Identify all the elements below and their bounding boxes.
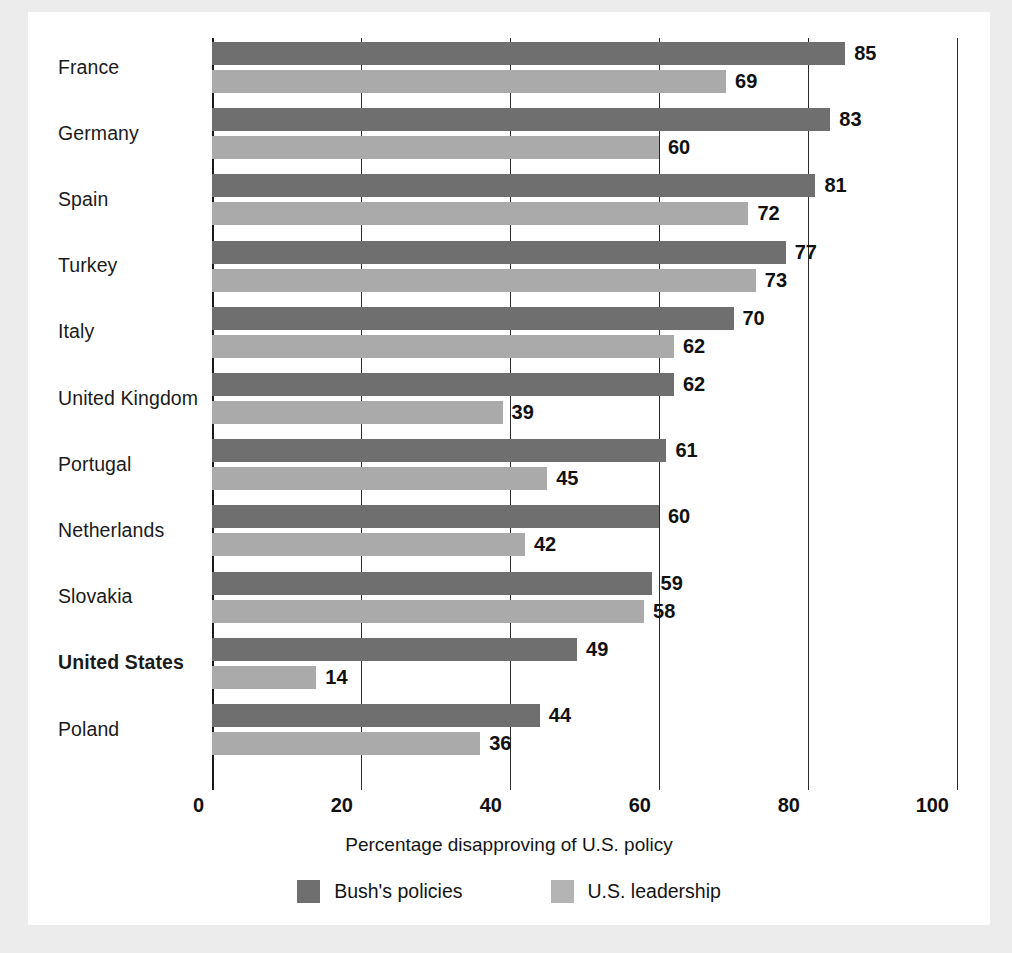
- bar-value-bush-policies: 85: [854, 42, 876, 65]
- bar-value-us-leadership: 60: [668, 136, 690, 159]
- category-label-united-states: United States: [58, 651, 184, 674]
- legend-label: U.S. leadership: [588, 880, 721, 903]
- bar-bush-policies: [212, 241, 786, 264]
- bar-value-bush-policies: 59: [661, 572, 683, 595]
- bar-us-leadership: [212, 401, 503, 424]
- gridline-60: [659, 38, 660, 790]
- bar-value-bush-policies: 44: [549, 704, 571, 727]
- bar-bush-policies: [212, 307, 734, 330]
- bar-value-us-leadership: 58: [653, 600, 675, 623]
- category-label-poland: Poland: [58, 718, 119, 741]
- bar-us-leadership: [212, 202, 748, 225]
- legend-swatch-icon: [297, 880, 320, 903]
- bar-bush-policies: [212, 373, 674, 396]
- x-tick-label-40: 40: [450, 794, 502, 817]
- bar-value-us-leadership: 14: [325, 666, 347, 689]
- bar-value-bush-policies: 83: [839, 108, 861, 131]
- bar-bush-policies: [212, 42, 845, 65]
- category-label-slovakia: Slovakia: [58, 585, 133, 608]
- category-label-united-kingdom: United Kingdom: [58, 387, 198, 410]
- category-label-spain: Spain: [58, 188, 108, 211]
- bar-value-us-leadership: 42: [534, 533, 556, 556]
- bar-value-us-leadership: 62: [683, 335, 705, 358]
- bar-value-bush-policies: 77: [795, 241, 817, 264]
- legend-label: Bush's policies: [334, 880, 462, 903]
- bar-value-us-leadership: 72: [757, 202, 779, 225]
- bar-value-bush-policies: 60: [668, 505, 690, 528]
- bar-bush-policies: [212, 174, 815, 197]
- bar-bush-policies: [212, 704, 540, 727]
- category-label-turkey: Turkey: [58, 254, 117, 277]
- category-label-france: France: [58, 56, 119, 79]
- bar-value-us-leadership: 45: [556, 467, 578, 490]
- bar-us-leadership: [212, 335, 674, 358]
- chart-card: France8569Germany8360Spain8172Turkey7773…: [28, 12, 990, 925]
- legend-swatch-icon: [551, 880, 574, 903]
- bar-bush-policies: [212, 439, 666, 462]
- legend-item-u-s-leadership[interactable]: U.S. leadership: [551, 880, 721, 903]
- bar-bush-policies: [212, 505, 659, 528]
- bar-us-leadership: [212, 732, 480, 755]
- category-label-italy: Italy: [58, 320, 94, 343]
- chart-plot-area: France8569Germany8360Spain8172Turkey7773…: [28, 12, 990, 925]
- bar-bush-policies: [212, 572, 652, 595]
- bar-value-us-leadership: 39: [512, 401, 534, 424]
- bar-us-leadership: [212, 269, 756, 292]
- category-label-netherlands: Netherlands: [58, 519, 164, 542]
- bar-value-us-leadership: 69: [735, 70, 757, 93]
- bar-value-bush-policies: 70: [743, 307, 765, 330]
- x-tick-label-20: 20: [301, 794, 353, 817]
- bar-us-leadership: [212, 666, 316, 689]
- bar-us-leadership: [212, 136, 659, 159]
- bar-us-leadership: [212, 467, 547, 490]
- category-label-portugal: Portugal: [58, 453, 131, 476]
- bar-us-leadership: [212, 70, 726, 93]
- bar-value-us-leadership: 36: [489, 732, 511, 755]
- category-label-germany: Germany: [58, 122, 139, 145]
- x-tick-label-0: 0: [152, 794, 204, 817]
- x-tick-label-80: 80: [748, 794, 800, 817]
- x-tick-label-100: 100: [897, 794, 949, 817]
- bar-value-bush-policies: 81: [824, 174, 846, 197]
- bar-value-bush-policies: 49: [586, 638, 608, 661]
- bar-us-leadership: [212, 600, 644, 623]
- bar-bush-policies: [212, 638, 577, 661]
- bar-value-bush-policies: 61: [675, 439, 697, 462]
- bar-bush-policies: [212, 108, 830, 131]
- x-tick-label-60: 60: [599, 794, 651, 817]
- x-axis-title: Percentage disapproving of U.S. policy: [28, 834, 990, 856]
- bar-value-us-leadership: 73: [765, 269, 787, 292]
- chart-legend: Bush's policiesU.S. leadership: [28, 880, 990, 903]
- gridline-100: [957, 38, 958, 790]
- legend-item-bush-s-policies[interactable]: Bush's policies: [297, 880, 462, 903]
- gridline-80: [808, 38, 809, 790]
- bar-value-bush-policies: 62: [683, 373, 705, 396]
- bar-us-leadership: [212, 533, 525, 556]
